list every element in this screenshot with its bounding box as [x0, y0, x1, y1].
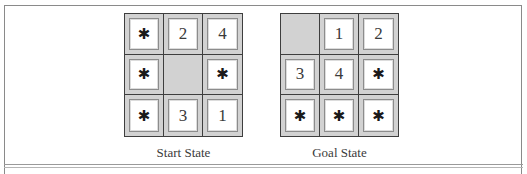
- start-state-cell: 4: [203, 14, 242, 55]
- goal-state-cell: ✱: [281, 95, 320, 136]
- caption-divider-secondary: [4, 167, 523, 168]
- start-state-cell: 2: [164, 14, 203, 55]
- goal-state-cell: ✱: [359, 95, 398, 136]
- number-tile: 3: [285, 59, 315, 91]
- wildcard-tile-asterisk-icon: ✱: [363, 99, 394, 132]
- goal-state-label: Goal State: [280, 145, 399, 161]
- figure-frame: [4, 5, 522, 174]
- number-tile: 2: [363, 18, 394, 50]
- wildcard-tile-asterisk-icon: ✱: [129, 59, 159, 91]
- number-tile: 1: [324, 18, 354, 50]
- wildcard-tile-asterisk-icon: ✱: [363, 59, 394, 91]
- start-state-label: Start State: [124, 145, 243, 161]
- number-tile: 1: [207, 99, 238, 132]
- number-tile: 4: [324, 59, 354, 91]
- start-state-cell: ✱: [125, 95, 164, 136]
- start-state-puzzle-grid: ✱24✱✱✱31: [124, 13, 243, 137]
- wildcard-tile-asterisk-icon: ✱: [324, 99, 354, 132]
- start-state-cell: ✱: [125, 14, 164, 55]
- start-state-cell: ✱: [125, 55, 164, 96]
- wildcard-tile-asterisk-icon: ✱: [285, 99, 315, 132]
- wildcard-tile-asterisk-icon: ✱: [129, 99, 159, 132]
- goal-state-cell: ✱: [320, 95, 359, 136]
- goal-state-cell: ✱: [359, 55, 398, 96]
- number-tile: 4: [207, 18, 238, 50]
- start-state-blank-cell: [164, 55, 203, 96]
- goal-state-cell: 2: [359, 14, 398, 55]
- start-state-cell: 1: [203, 95, 242, 136]
- goal-state-puzzle-grid: 1234✱✱✱✱: [280, 13, 399, 137]
- number-tile: 2: [168, 18, 198, 50]
- goal-state-cell: 1: [320, 14, 359, 55]
- wildcard-tile-asterisk-icon: ✱: [207, 59, 238, 91]
- goal-state-blank-cell: [281, 14, 320, 55]
- goal-state-cell: 4: [320, 55, 359, 96]
- caption-divider: [4, 164, 523, 165]
- start-state-cell: ✱: [203, 55, 242, 96]
- goal-state-cell: 3: [281, 55, 320, 96]
- wildcard-tile-asterisk-icon: ✱: [129, 18, 159, 50]
- number-tile: 3: [168, 99, 198, 132]
- start-state-cell: 3: [164, 95, 203, 136]
